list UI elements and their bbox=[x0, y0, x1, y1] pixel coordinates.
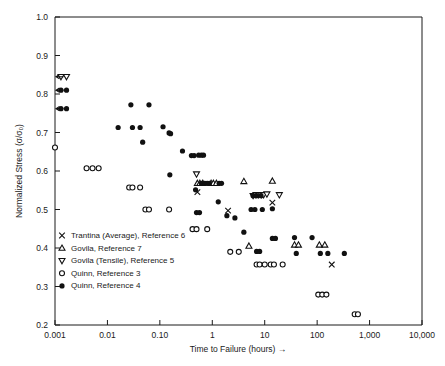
x-tick-label: 1,000 bbox=[359, 330, 381, 340]
data-point bbox=[130, 185, 135, 190]
data-point bbox=[325, 251, 330, 256]
open-circle-marker bbox=[205, 227, 210, 232]
data-point bbox=[355, 312, 360, 317]
x-tick-label: 10 bbox=[260, 330, 270, 340]
filled-circle-marker bbox=[219, 181, 224, 186]
filled-circle-marker bbox=[232, 215, 237, 220]
data-point bbox=[273, 236, 278, 241]
data-point bbox=[260, 207, 265, 212]
data-point bbox=[254, 193, 259, 198]
data-point bbox=[241, 230, 246, 235]
open-circle-marker bbox=[262, 262, 267, 267]
y-tick-label: 0.9 bbox=[36, 51, 48, 61]
open-circle-marker bbox=[130, 185, 135, 190]
data-point bbox=[252, 207, 257, 212]
filled-circle-marker bbox=[167, 172, 172, 177]
filled-circle-marker bbox=[64, 106, 69, 111]
data-point bbox=[146, 207, 151, 212]
filled-circle-marker bbox=[140, 140, 145, 145]
data-point bbox=[270, 206, 275, 211]
filled-circle-marker bbox=[160, 124, 165, 129]
filled-circle-marker bbox=[254, 193, 259, 198]
data-point bbox=[193, 187, 198, 192]
data-point bbox=[280, 262, 285, 267]
data-point bbox=[168, 131, 173, 136]
open-circle-marker bbox=[271, 262, 276, 267]
open-circle-marker bbox=[138, 185, 143, 190]
filled-circle-marker bbox=[292, 235, 297, 240]
legend-item-label: Trantina (Average), Reference 6 bbox=[71, 231, 186, 240]
filled-circle-marker bbox=[116, 125, 121, 130]
open-circle-marker bbox=[90, 166, 95, 171]
x-tick-label: 10,000 bbox=[409, 330, 435, 340]
filled-circle-marker bbox=[325, 251, 330, 256]
data-point bbox=[262, 262, 267, 267]
filled-circle-marker bbox=[258, 193, 263, 198]
data-point bbox=[116, 125, 121, 130]
x-tick-label: 0.001 bbox=[44, 330, 66, 340]
open-circle-marker bbox=[60, 271, 65, 276]
filled-circle-marker bbox=[252, 207, 257, 212]
data-point bbox=[216, 199, 221, 204]
filled-circle-marker bbox=[294, 251, 299, 256]
open-circle-marker bbox=[53, 145, 58, 150]
data-point bbox=[236, 249, 241, 254]
filled-circle-marker bbox=[192, 153, 197, 158]
legend-item-label: Quinn, Reference 3 bbox=[71, 269, 141, 278]
filled-circle-marker bbox=[128, 102, 133, 107]
data-point bbox=[228, 249, 233, 254]
filled-circle-marker bbox=[197, 210, 202, 215]
filled-circle-marker bbox=[138, 125, 143, 130]
filled-circle-marker bbox=[257, 249, 262, 254]
data-point bbox=[219, 181, 224, 186]
filled-circle-marker bbox=[342, 251, 347, 256]
open-circle-marker bbox=[236, 249, 241, 254]
filled-circle-marker bbox=[309, 235, 314, 240]
data-point bbox=[146, 102, 151, 107]
y-tick-label: 0.5 bbox=[36, 205, 48, 215]
data-point bbox=[257, 262, 262, 267]
y-tick-label: 0.2 bbox=[36, 320, 48, 330]
y-tick-label: 0.4 bbox=[36, 243, 48, 253]
filled-circle-marker bbox=[130, 125, 135, 130]
data-point bbox=[294, 251, 299, 256]
runout-data-point bbox=[64, 88, 69, 93]
y-tick-label: 0.6 bbox=[36, 166, 48, 176]
data-point bbox=[160, 124, 165, 129]
y-tick-label: 0.3 bbox=[36, 282, 48, 292]
x-tick-label: 100 bbox=[310, 330, 324, 340]
legend-item-label: Govila (Tensile), Reference 5 bbox=[71, 256, 175, 265]
filled-circle-marker bbox=[270, 206, 275, 211]
data-point bbox=[232, 215, 237, 220]
data-point bbox=[192, 153, 197, 158]
x-axis-title: Time to Failure (hours) → bbox=[190, 344, 287, 354]
filled-circle-marker bbox=[180, 148, 185, 153]
y-tick-label: 0.7 bbox=[36, 128, 48, 138]
filled-circle-marker bbox=[59, 283, 64, 288]
y-tick-label: 0.8 bbox=[36, 89, 48, 99]
open-circle-marker bbox=[324, 292, 329, 297]
scatter-plot-canvas: 1.00.90.80.70.60.50.40.30.2 0.0010.010.1… bbox=[0, 0, 445, 366]
filled-circle-marker bbox=[201, 153, 206, 158]
filled-circle-marker bbox=[193, 187, 198, 192]
filled-circle-marker bbox=[318, 251, 323, 256]
runout-data-point bbox=[64, 106, 69, 111]
data-point bbox=[167, 207, 172, 212]
y-axis-title: Normalized Stress (σ/σ₀) bbox=[14, 124, 24, 218]
open-circle-marker bbox=[146, 207, 151, 212]
data-point bbox=[90, 166, 95, 171]
data-point bbox=[84, 166, 89, 171]
filled-circle-marker bbox=[64, 88, 69, 93]
data-point bbox=[194, 227, 199, 232]
data-point bbox=[180, 148, 185, 153]
data-point bbox=[201, 153, 206, 158]
legend-item-1: Govila, Reference 7 bbox=[59, 244, 142, 253]
data-point bbox=[96, 166, 101, 171]
y-tick-label: 1.0 bbox=[36, 12, 48, 22]
open-circle-marker bbox=[355, 312, 360, 317]
data-point bbox=[138, 185, 143, 190]
y-axis-tick-labels: 1.00.90.80.70.60.50.40.30.2 bbox=[36, 12, 48, 330]
data-point bbox=[258, 193, 263, 198]
legend-item-3: Quinn, Reference 3 bbox=[60, 269, 141, 278]
filled-circle-marker bbox=[168, 131, 173, 136]
